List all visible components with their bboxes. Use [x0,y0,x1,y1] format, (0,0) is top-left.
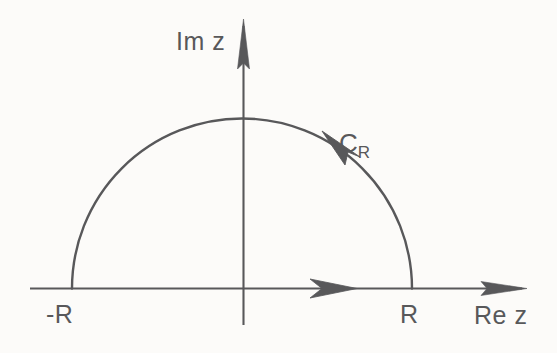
real-axis-arrowhead-icon [481,282,527,296]
contour-diagram-figure: Im z Re z -R R CR [0,0,557,353]
left-endpoint-label: -R [46,302,73,327]
right-endpoint-label: R [400,302,418,327]
contour-label-subscript: R [358,143,370,162]
imaginary-axis-label: Im z [176,29,225,54]
contour-label: CR [339,130,370,156]
real-axis-label: Re z [474,303,527,328]
contour-label-base: C [339,128,358,158]
imaginary-axis-arrowhead-icon [238,19,250,69]
